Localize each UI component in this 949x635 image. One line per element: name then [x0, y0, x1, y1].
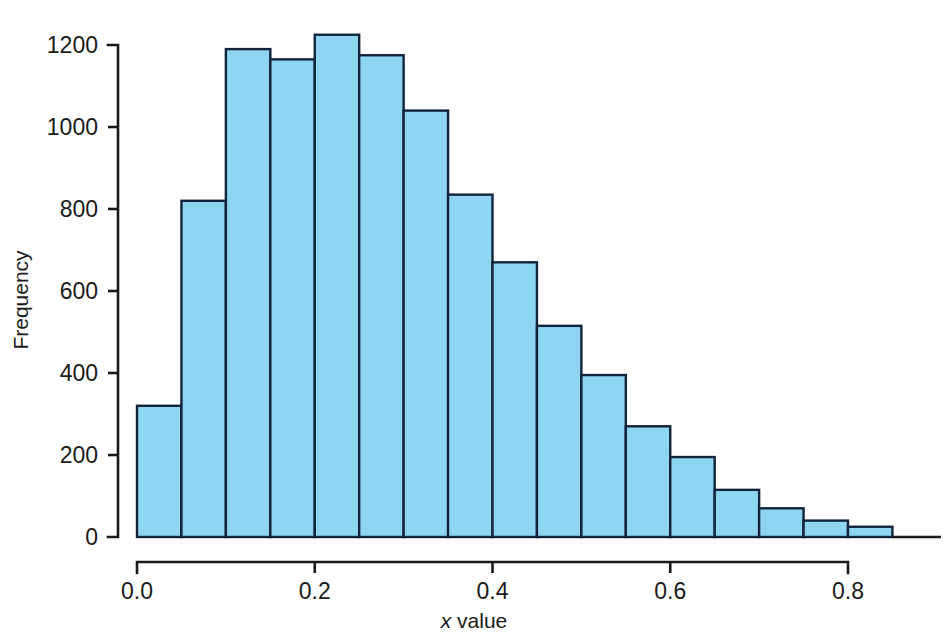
histogram-bar — [848, 527, 892, 537]
y-tick-label: 600 — [60, 278, 98, 304]
histogram-figure: 020040060080010001200 0.00.20.40.60.8 Fr… — [0, 0, 949, 635]
x-tick-label: 0.6 — [654, 578, 686, 604]
x-tick-label: 0.0 — [121, 578, 153, 604]
y-axis-title: Frequency — [9, 250, 32, 350]
x-axis-title: x value — [440, 609, 508, 632]
histogram-bar — [759, 508, 803, 537]
histogram-bar — [359, 55, 403, 537]
histogram-bar — [670, 457, 714, 537]
x-tick-label: 0.2 — [299, 578, 331, 604]
histogram-bar — [493, 262, 537, 537]
x-axis-title-rest: value — [451, 609, 507, 632]
x-tick-label: 0.8 — [832, 578, 864, 604]
histogram-chart: 020040060080010001200 0.00.20.40.60.8 Fr… — [0, 0, 949, 635]
histogram-bar — [626, 426, 670, 537]
y-tick-label: 1200 — [47, 32, 98, 58]
histogram-bar — [715, 490, 759, 537]
histogram-bar — [404, 111, 448, 537]
histogram-bar — [315, 35, 359, 537]
histogram-bar — [226, 49, 270, 537]
y-tick-label: 200 — [60, 442, 98, 468]
histogram-bar — [581, 375, 625, 537]
x-tick-label: 0.4 — [477, 578, 509, 604]
y-tick-label: 800 — [60, 196, 98, 222]
histogram-bar — [537, 326, 581, 537]
y-tick-label: 0 — [85, 524, 98, 550]
histogram-bar — [448, 195, 492, 537]
histogram-bar — [804, 521, 848, 537]
y-tick-label: 400 — [60, 360, 98, 386]
y-tick-label: 1000 — [47, 114, 98, 140]
histogram-bar — [181, 201, 225, 537]
histogram-bar — [270, 59, 314, 537]
histogram-bar — [137, 406, 181, 537]
